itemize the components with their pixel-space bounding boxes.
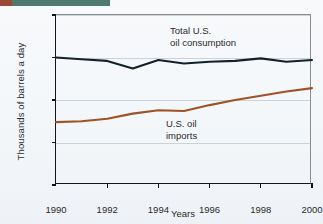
annotation-imports-line2: imports [166, 130, 197, 142]
annotation-us-oil-imports: U.S. oil imports [166, 118, 197, 141]
annotation-consumption-line1: Total U.S. [170, 25, 236, 37]
top-band-right-segment [12, 0, 110, 6]
x-tick-label: 1994 [148, 204, 169, 215]
decorative-top-band [0, 0, 110, 6]
x-tick-label: 2000 [301, 204, 322, 215]
top-band-left-segment [0, 0, 12, 6]
x-axis-title: Years [55, 208, 311, 219]
x-tick-label: 1992 [97, 204, 118, 215]
x-tick-label: 1990 [45, 204, 66, 215]
line-us-oil-imports [56, 88, 312, 122]
annotation-imports-line1: U.S. oil [166, 118, 197, 130]
line-total-us-oil-consumption [56, 58, 312, 69]
x-tick-label: 1996 [199, 204, 220, 215]
x-tick-label: 1998 [250, 204, 271, 215]
y-axis-title: Thousands of barrels a day [15, 14, 26, 190]
annotation-total-us-oil-consumption: Total U.S. oil consumption [170, 25, 236, 48]
annotation-consumption-line2: oil consumption [170, 37, 236, 49]
